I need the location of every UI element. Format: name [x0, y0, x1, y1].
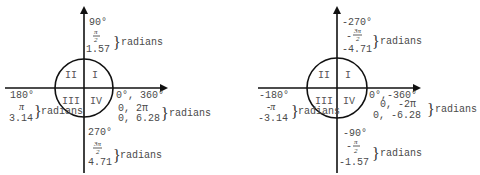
top-sign: - [346, 31, 352, 42]
bottom-unit: radians [380, 148, 422, 159]
top-degrees: 90° [89, 17, 107, 28]
quadrant-label-i: I [345, 70, 351, 81]
bottom-frac-den: 2 [354, 147, 358, 155]
quadrant-label-iv: IV [343, 96, 355, 107]
right-unit: radians [435, 104, 477, 115]
left-symbol: π [19, 101, 25, 112]
bottom-sign: - [346, 141, 352, 152]
bottom-frac-num: 3π [93, 140, 102, 148]
top-brace: } [113, 34, 121, 51]
quadrant-label-iv: IV [90, 96, 102, 107]
quadrant-label-i: I [92, 70, 98, 81]
top-brace: } [372, 33, 380, 50]
top-frac-den: 2 [356, 35, 360, 43]
quadrant-label-ii: II [318, 70, 330, 81]
right-line2: 0, 6.28 [118, 113, 160, 124]
bottom-decimal: 4.71 [88, 157, 112, 168]
right-degrees: 0°, 360° [116, 90, 164, 101]
left-decimal: -3.14 [258, 113, 288, 124]
quadrant-label-ii: II [65, 70, 77, 81]
left-symbol: -π [267, 101, 276, 112]
left-decimal: 3.14 [9, 113, 33, 124]
right-line2: 0, -6.28 [373, 110, 421, 121]
bottom-degrees: 270° [88, 127, 112, 138]
negative-angle-diagram: I II III IV -270° - 3π 2 -4.71 } radians… [258, 8, 477, 173]
bottom-frac-num: π [354, 138, 358, 146]
top-decimal: 1.57 [86, 44, 110, 55]
right-unit: radians [169, 108, 211, 119]
top-unit: radians [380, 36, 422, 47]
left-unit: radians [298, 106, 340, 117]
top-frac-den: 2 [94, 36, 98, 44]
bottom-frac-den: 2 [96, 148, 100, 156]
positive-angle-diagram: I II III IV 90° π 2 1.57 } radians 180° … [5, 8, 211, 173]
right-brace: } [427, 101, 435, 118]
top-decimal: -4.71 [342, 44, 372, 55]
bottom-unit: radians [120, 150, 162, 161]
bottom-brace: } [372, 145, 380, 162]
left-unit: radians [41, 106, 83, 117]
right-brace: } [161, 105, 169, 122]
unit-circle-diagrams: I II III IV 90° π 2 1.57 } radians 180° … [0, 0, 480, 175]
top-unit: radians [121, 37, 163, 48]
top-frac-num: 3π [353, 27, 362, 35]
left-degrees: 180° [10, 90, 34, 101]
left-degrees: -180° [259, 90, 289, 101]
bottom-decimal: -1.57 [339, 157, 369, 168]
top-frac-num: π [94, 28, 98, 36]
right-line1: 0, -2π [380, 99, 416, 110]
